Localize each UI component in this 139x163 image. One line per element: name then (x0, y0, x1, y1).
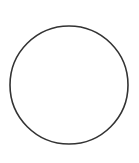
background (0, 0, 139, 163)
canvas (0, 0, 139, 163)
